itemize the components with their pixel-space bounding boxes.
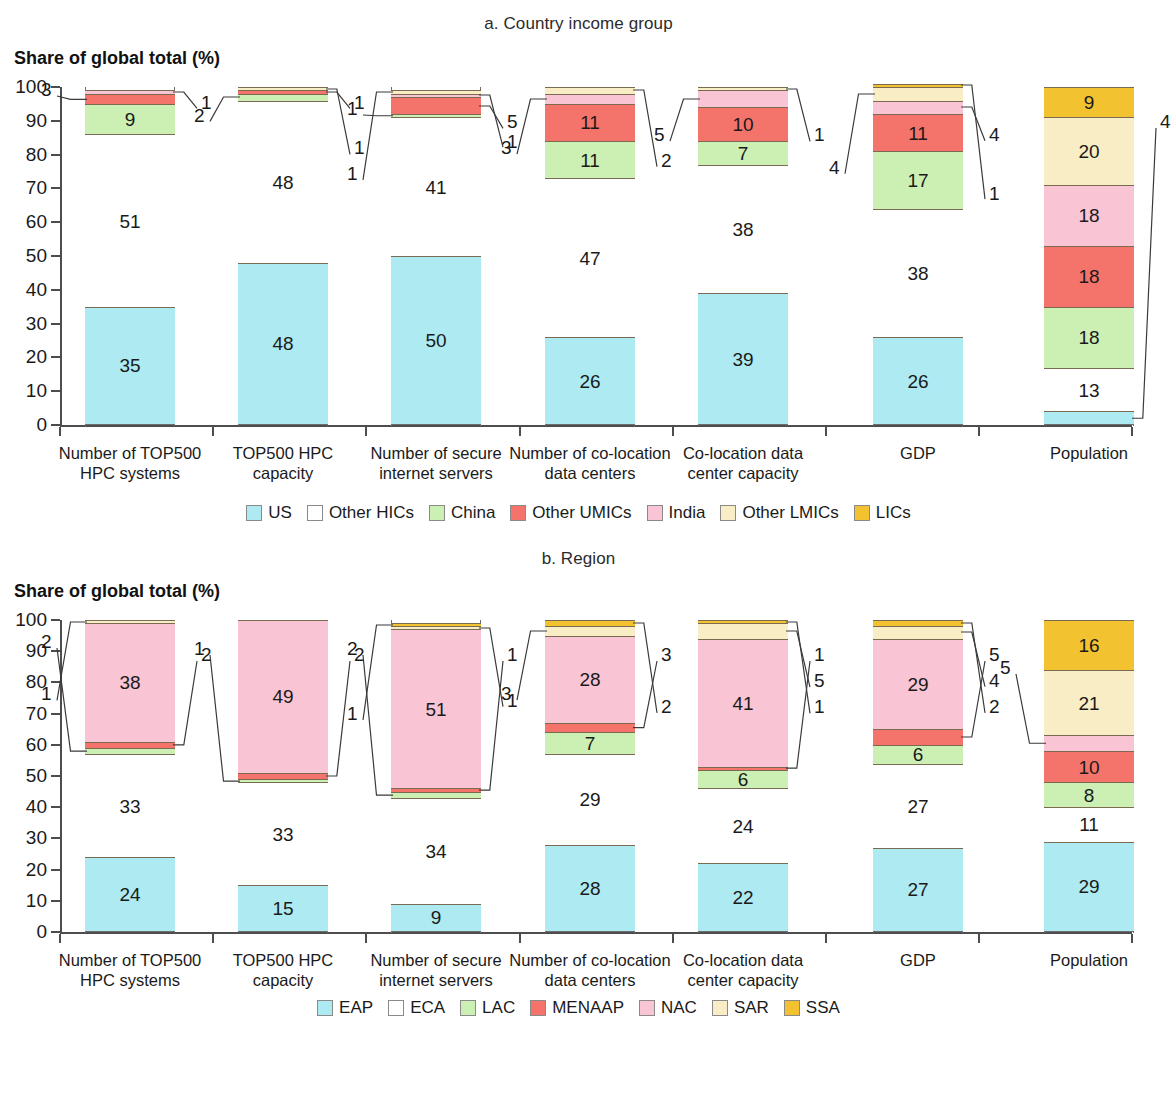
bar-segment: 29 xyxy=(1044,842,1134,932)
bar-segment: 27 xyxy=(873,764,963,848)
legend-item-other-hics[interactable]: Other HICs xyxy=(307,503,414,523)
segment-value-label: 24 xyxy=(732,817,753,836)
segment-callout-value: 3 xyxy=(501,137,512,159)
segment-callout-value: 1 xyxy=(814,696,825,718)
y-axis-tick-label: 70 xyxy=(1,703,47,725)
y-axis-tick-label: 30 xyxy=(1,313,47,335)
y-axis-tick xyxy=(51,356,60,358)
bar-segment: 41 xyxy=(391,117,481,256)
category-label-line: GDP xyxy=(828,443,1008,463)
y-axis-tick-label: 50 xyxy=(1,245,47,267)
x-axis-tick xyxy=(519,934,521,943)
bar-segment: 18 xyxy=(1044,307,1134,368)
segment-value-label: 11 xyxy=(580,113,600,132)
legend-item-nac[interactable]: NAC xyxy=(639,998,697,1018)
legend-item-lac[interactable]: LAC xyxy=(460,998,515,1018)
bar-segment: 26 xyxy=(873,337,963,425)
bar-segment: 11 xyxy=(545,104,635,141)
segment-callout-value: 1 xyxy=(347,98,358,120)
legend-item-china[interactable]: China xyxy=(429,503,495,523)
y-axis-tick xyxy=(51,869,60,871)
segment-callout-value: 1 xyxy=(989,183,1000,205)
segment-value-label: 7 xyxy=(585,734,596,753)
legend-item-eca[interactable]: ECA xyxy=(388,998,445,1018)
bar-segment: 7 xyxy=(545,732,635,754)
bar-segment: 8 xyxy=(1044,782,1134,807)
bar-segment: 7 xyxy=(698,141,788,165)
bar-segment xyxy=(391,788,481,791)
bar-segment xyxy=(873,626,963,638)
segment-value-label: 24 xyxy=(119,885,140,904)
x-axis-tick xyxy=(59,934,61,943)
x-axis-tick xyxy=(672,934,674,943)
bar-segment: 51 xyxy=(391,629,481,788)
y-axis-tick xyxy=(51,221,60,223)
x-axis-tick xyxy=(978,427,980,436)
segment-callout-value: 1 xyxy=(814,644,825,666)
legend-item-eap[interactable]: EAP xyxy=(317,998,373,1018)
segment-value-label: 11 xyxy=(908,124,928,143)
bar-segment xyxy=(85,742,175,748)
legend-label: NAC xyxy=(661,998,697,1018)
legend-swatch-icon xyxy=(854,505,870,521)
segment-callout-value: 2 xyxy=(194,105,205,127)
bar-segment xyxy=(698,623,788,639)
y-axis-tick-label: 60 xyxy=(1,211,47,233)
segment-value-label: 27 xyxy=(907,880,928,899)
segment-value-label: 11 xyxy=(580,151,600,170)
x-axis-tick xyxy=(978,934,980,943)
segment-callout-value: 1 xyxy=(347,163,358,185)
segment-callout-value: 3 xyxy=(41,79,52,101)
segment-value-label: 11 xyxy=(1079,815,1099,834)
legend-item-menaap[interactable]: MENAAP xyxy=(530,998,624,1018)
y-axis-tick-label: 60 xyxy=(1,734,47,756)
x-axis-category-label: Number of secureinternet servers xyxy=(346,950,526,990)
bar-segment: 26 xyxy=(545,337,635,425)
category-label-line: internet servers xyxy=(346,970,526,990)
legend-item-other-umics[interactable]: Other UMICs xyxy=(510,503,631,523)
legend-item-ssa[interactable]: SSA xyxy=(784,998,840,1018)
bar-segment xyxy=(1044,411,1134,425)
bar-segment: 41 xyxy=(698,639,788,767)
segment-callout-value: 4 xyxy=(829,157,840,179)
x-axis-tick xyxy=(1131,934,1133,943)
x-axis-category-label: GDP xyxy=(828,950,1008,970)
bar-segment: 33 xyxy=(85,754,175,857)
legend-item-india[interactable]: India xyxy=(647,503,706,523)
bar-segment: 18 xyxy=(1044,246,1134,307)
y-axis-tick-label: 30 xyxy=(1,827,47,849)
legend-item-other-lmics[interactable]: Other LMICs xyxy=(720,503,838,523)
bar-segment xyxy=(391,626,481,629)
segment-value-label: 38 xyxy=(119,673,140,692)
segment-value-label: 49 xyxy=(272,687,293,706)
y-axis-tick-label: 80 xyxy=(1,144,47,166)
bar-segment xyxy=(873,84,963,87)
panel-country-income-group: a. Country income group Share of global … xyxy=(0,0,1157,523)
segment-callout-value: 5 xyxy=(654,124,665,146)
bar-segment xyxy=(698,87,788,90)
bar-segment: 21 xyxy=(1044,670,1134,736)
y-axis-tick-label: 90 xyxy=(1,110,47,132)
bar-segment: 28 xyxy=(545,845,635,932)
legend-item-us[interactable]: US xyxy=(246,503,292,523)
x-axis-tick xyxy=(825,427,827,436)
segment-value-label: 26 xyxy=(579,372,600,391)
x-axis-category-label: Number of secureinternet servers xyxy=(346,443,526,483)
y-axis-tick xyxy=(51,323,60,325)
segment-value-label: 6 xyxy=(913,745,924,764)
bar-segment: 47 xyxy=(545,178,635,337)
legend-swatch-icon xyxy=(460,1000,476,1016)
segment-callout-value: 1 xyxy=(194,638,205,660)
bar-segment xyxy=(85,748,175,754)
legend-item-sar[interactable]: SAR xyxy=(712,998,769,1018)
bar-segment xyxy=(238,773,328,779)
x-axis-category-label: Co-location datacenter capacity xyxy=(653,443,833,483)
bar-segment: 15 xyxy=(238,885,328,932)
legend-label: LICs xyxy=(876,503,911,523)
segment-callout-value: 4 xyxy=(1160,111,1171,133)
bar-segment: 9 xyxy=(391,904,481,932)
legend-item-lics[interactable]: LICs xyxy=(854,503,911,523)
category-label-line: center capacity xyxy=(653,970,833,990)
legend-swatch-icon xyxy=(510,505,526,521)
segment-callout-value: 2 xyxy=(347,638,358,660)
